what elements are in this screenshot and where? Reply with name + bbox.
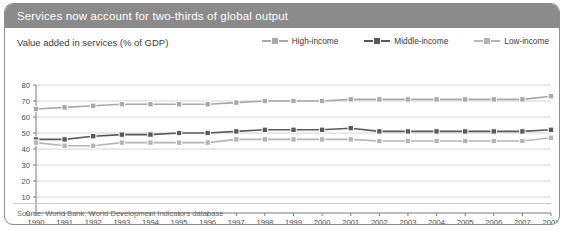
x-axis-tick-label: 2007 — [514, 218, 531, 224]
data-point-marker — [119, 132, 124, 137]
data-point-marker — [262, 137, 267, 142]
data-point-marker — [262, 127, 267, 132]
data-point-marker — [148, 102, 153, 107]
x-axis-tick-label: 1990 — [28, 218, 45, 224]
data-point-marker — [148, 140, 153, 145]
data-point-marker — [319, 137, 324, 142]
y-axis-tick-label: 10 — [22, 193, 30, 202]
data-point-marker — [91, 143, 96, 148]
figure-title: Services now account for two-thirds of g… — [17, 10, 288, 22]
data-point-marker — [176, 102, 181, 107]
y-axis-tick-label: 60 — [22, 113, 30, 122]
data-point-marker — [62, 143, 67, 148]
data-point-marker — [548, 127, 553, 132]
data-point-marker — [377, 129, 382, 134]
data-point-marker — [205, 140, 210, 145]
y-axis-tick-label: 80 — [22, 81, 30, 90]
x-axis-tick-label: 2000 — [314, 218, 331, 224]
data-point-marker — [234, 100, 239, 105]
x-axis-tick-label: 1999 — [285, 218, 302, 224]
data-point-marker — [119, 102, 124, 107]
data-point-marker — [548, 135, 553, 140]
data-point-marker — [491, 97, 496, 102]
data-point-marker — [319, 98, 324, 103]
data-point-marker — [348, 137, 353, 142]
data-point-marker — [91, 134, 96, 139]
x-axis-tick-label: 1998 — [256, 218, 273, 224]
data-point-marker — [434, 138, 439, 143]
x-axis-tick-label: 2006 — [485, 218, 502, 224]
y-axis-tick-label: 50 — [22, 129, 30, 138]
data-point-marker — [91, 103, 96, 108]
x-axis-tick-label: 1996 — [199, 218, 216, 224]
data-point-marker — [176, 130, 181, 135]
data-point-marker — [377, 138, 382, 143]
data-point-marker — [205, 102, 210, 107]
data-point-marker — [62, 105, 67, 110]
data-point-marker — [176, 140, 181, 145]
y-axis-tick-label: 70 — [22, 97, 30, 106]
y-axis-tick-label: 40 — [22, 145, 30, 154]
data-point-marker — [491, 129, 496, 134]
data-point-marker — [234, 137, 239, 142]
data-point-marker — [234, 129, 239, 134]
data-point-marker — [148, 132, 153, 137]
data-point-marker — [434, 129, 439, 134]
data-point-marker — [491, 138, 496, 143]
data-point-marker — [262, 98, 267, 103]
x-axis-tick-label: 1997 — [228, 218, 245, 224]
data-point-marker — [405, 138, 410, 143]
x-axis-tick-label: 2003 — [399, 218, 416, 224]
x-axis-tick-label: 2001 — [342, 218, 359, 224]
figure-body: Value added in services (% of GDP) High-… — [5, 28, 559, 224]
data-point-marker — [205, 130, 210, 135]
data-point-marker — [291, 127, 296, 132]
data-point-marker — [520, 129, 525, 134]
x-axis-tick-label: 1991 — [56, 218, 73, 224]
x-axis-tick-label: 2005 — [457, 218, 474, 224]
data-point-marker — [348, 126, 353, 131]
x-axis-tick-label: 1992 — [85, 218, 102, 224]
x-axis-tick-label: 2004 — [428, 218, 445, 224]
chart-plot-area: 0102030405060708019901991199219931994199… — [5, 28, 560, 224]
data-point-marker — [548, 94, 553, 99]
data-point-marker — [33, 106, 38, 111]
data-point-marker — [291, 98, 296, 103]
data-point-marker — [377, 97, 382, 102]
y-axis-tick-label: 20 — [22, 177, 30, 186]
data-point-marker — [119, 140, 124, 145]
y-axis-tick-label: 30 — [22, 161, 30, 170]
figure-header: Services now account for two-thirds of g… — [5, 4, 559, 28]
data-point-marker — [348, 97, 353, 102]
x-axis-tick-label: 1995 — [171, 218, 188, 224]
x-axis-tick-label: 1994 — [142, 218, 159, 224]
data-point-marker — [462, 129, 467, 134]
source-divider — [13, 203, 551, 204]
data-point-marker — [62, 137, 67, 142]
data-point-marker — [434, 97, 439, 102]
figure-panel: Services now account for two-thirds of g… — [4, 3, 560, 225]
data-point-marker — [319, 127, 324, 132]
data-point-marker — [520, 138, 525, 143]
data-point-marker — [520, 97, 525, 102]
x-axis-tick-label: 2008 — [543, 218, 560, 224]
source-note: Source: World Bank, World Development In… — [17, 209, 224, 218]
data-point-marker — [462, 97, 467, 102]
data-point-marker — [405, 97, 410, 102]
line-chart: 0102030405060708019901991199219931994199… — [5, 28, 560, 224]
data-point-marker — [33, 140, 38, 145]
data-point-marker — [291, 137, 296, 142]
x-axis-tick-label: 1993 — [113, 218, 130, 224]
x-axis-tick-label: 2002 — [371, 218, 388, 224]
data-point-marker — [405, 129, 410, 134]
data-point-marker — [462, 138, 467, 143]
